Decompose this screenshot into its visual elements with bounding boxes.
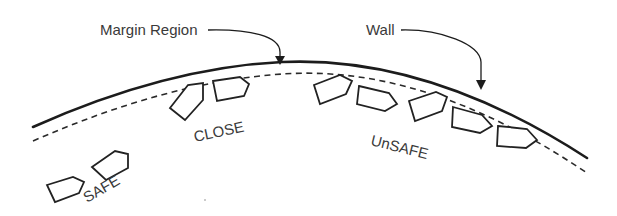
close-vehicles: [170, 77, 249, 120]
margin-region-label: Margin Region: [100, 21, 198, 38]
margin-region-arrowhead-icon: [275, 56, 285, 65]
speck-mark: [204, 199, 206, 201]
wall-arrowhead-icon: [476, 80, 486, 90]
safety-zone-diagram: Margin Region Wall SAFE CLOSE UnSAFE: [0, 0, 617, 216]
close-zone-label: CLOSE: [192, 118, 245, 145]
vehicle-icon: [357, 86, 397, 111]
wall-label: Wall: [366, 21, 395, 38]
unsafe-zone-label: UnSAFE: [369, 131, 430, 162]
vehicle-icon: [170, 83, 203, 120]
vehicle-icon: [213, 77, 249, 101]
vehicle-icon: [452, 107, 492, 133]
margin-region-callout: Margin Region: [100, 21, 285, 65]
vehicle-icon: [47, 177, 84, 202]
vehicle-icon: [497, 126, 537, 148]
vehicle-icon: [409, 92, 447, 121]
margin-region-leader-line: [208, 30, 280, 60]
vehicle-icon: [314, 75, 352, 104]
